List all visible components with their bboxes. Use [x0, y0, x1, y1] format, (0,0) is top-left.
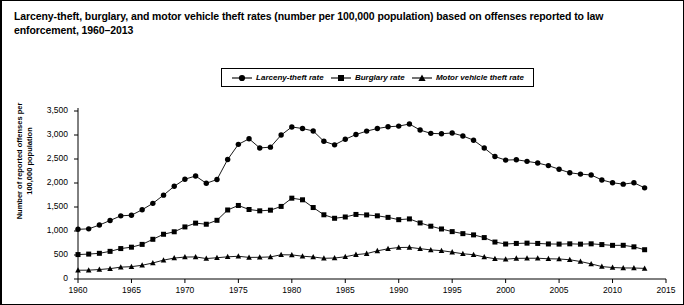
y-tick-label: 2,000 — [32, 178, 68, 187]
figure-container: Larceny-theft, burglary, and motor vehic… — [0, 0, 684, 305]
y-tick-label: 3,000 — [32, 130, 68, 139]
x-tick-label: 2005 — [542, 286, 576, 295]
x-tick-label: 2015 — [649, 286, 683, 295]
series-triangle — [75, 244, 647, 272]
y-tick-label: 3,500 — [32, 106, 68, 115]
x-tick-label: 1980 — [275, 286, 309, 295]
x-tick-label: 1985 — [328, 286, 362, 295]
series-square — [76, 196, 648, 257]
x-tick-label: 2000 — [489, 286, 523, 295]
x-tick-label: 1995 — [435, 286, 469, 295]
series-circle — [75, 121, 647, 232]
y-tick-label: 1,000 — [32, 226, 68, 235]
y-tick-label: 0 — [32, 274, 68, 283]
x-tick-label: 1965 — [114, 286, 148, 295]
x-tick-label: 1960 — [61, 286, 95, 295]
plot-area: Number of reported offenses per 100,000 … — [2, 1, 684, 305]
x-tick-label: 1990 — [382, 286, 416, 295]
y-tick-label: 2,500 — [32, 154, 68, 163]
x-tick-label: 1975 — [221, 286, 255, 295]
x-tick-label: 1970 — [168, 286, 202, 295]
chart-canvas — [2, 1, 684, 305]
x-tick-label: 2010 — [596, 286, 630, 295]
y-tick-label: 500 — [32, 250, 68, 259]
y-tick-label: 1,500 — [32, 202, 68, 211]
